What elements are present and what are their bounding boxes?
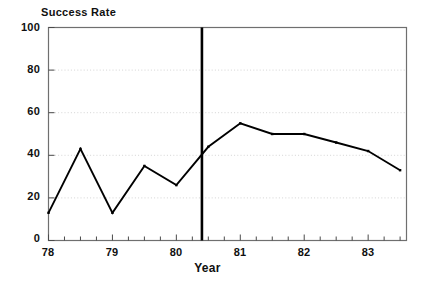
y-tick-label-40: 40 bbox=[6, 147, 40, 159]
data-line-success-rate bbox=[49, 123, 401, 212]
x-tick-label-82: 82 bbox=[284, 246, 324, 258]
gridlines bbox=[49, 70, 407, 198]
x-tick-label-83: 83 bbox=[348, 246, 388, 258]
chart-figure: Success Rate Year 100 80 60 40 20 0 78 7… bbox=[0, 0, 433, 291]
x-tick-label-80: 80 bbox=[156, 246, 196, 258]
y-tick-label-0: 0 bbox=[6, 232, 40, 244]
y-tick-label-100: 100 bbox=[6, 21, 40, 33]
y-tick-label-20: 20 bbox=[6, 190, 40, 202]
x-tick-label-81: 81 bbox=[220, 246, 260, 258]
x-axis-title: Year bbox=[0, 261, 433, 275]
y-tick-label-60: 60 bbox=[6, 105, 40, 117]
x-axis-title-text: Year bbox=[194, 261, 221, 275]
y-tick-label-80: 80 bbox=[6, 63, 40, 75]
plot-frame bbox=[49, 28, 407, 241]
x-tick-label-78: 78 bbox=[28, 246, 68, 258]
y-axis-title: Success Rate bbox=[41, 6, 116, 18]
x-tick-label-79: 79 bbox=[92, 246, 132, 258]
